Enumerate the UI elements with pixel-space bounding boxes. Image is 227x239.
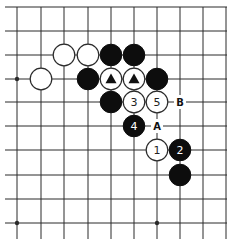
move-number: 4: [131, 120, 138, 133]
star-point: [15, 221, 19, 225]
white-stone: 5: [146, 91, 168, 113]
point-label-a: A: [153, 121, 161, 132]
black-stone: [77, 68, 99, 90]
move-number: 1: [154, 144, 161, 157]
white-stone: 1: [146, 139, 168, 161]
white-stone: [123, 68, 145, 90]
move-number: 2: [177, 144, 184, 157]
star-point: [155, 221, 159, 225]
star-point: [15, 77, 19, 81]
black-stone: [146, 68, 168, 90]
black-stone: 4: [123, 115, 145, 137]
black-stone: [100, 44, 122, 66]
white-stone: [30, 68, 52, 90]
white-stone: [77, 44, 99, 66]
white-stone: [53, 44, 75, 66]
white-stone: 3: [123, 91, 145, 113]
point-label-b: B: [176, 97, 184, 108]
black-stone: [123, 44, 145, 66]
black-stone: [100, 91, 122, 113]
black-stone: [169, 164, 191, 186]
board-grid: [5, 7, 227, 239]
move-number: 5: [154, 96, 161, 109]
black-stone: 2: [169, 139, 191, 161]
go-board: BA 35412: [0, 0, 227, 239]
move-number: 3: [131, 96, 138, 109]
white-stone: [100, 68, 122, 90]
